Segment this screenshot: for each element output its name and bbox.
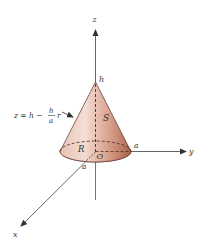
equation-lhs: z = h − bbox=[13, 111, 43, 120]
equation-fraction-numerator: h bbox=[49, 107, 54, 115]
z-axis-label: z bbox=[92, 15, 98, 24]
surface-label: S bbox=[103, 113, 109, 123]
equation-rhs: r bbox=[57, 111, 61, 120]
y-axis-label: y bbox=[188, 147, 194, 156]
base-region-label: R bbox=[77, 144, 85, 154]
origin-label: O bbox=[97, 152, 104, 161]
equation-fraction-denominator: a bbox=[49, 117, 53, 125]
cone-diagram: z y x h O a a S R z = h − h a r bbox=[0, 0, 204, 247]
apex-label: h bbox=[99, 75, 104, 84]
x-axis-label: x bbox=[13, 230, 18, 239]
cone-equation: z = h − h a r bbox=[13, 107, 61, 125]
y-radius-label: a bbox=[134, 141, 138, 150]
equation-pointer-arrow bbox=[62, 112, 73, 117]
x-radius-label: a bbox=[82, 162, 86, 171]
